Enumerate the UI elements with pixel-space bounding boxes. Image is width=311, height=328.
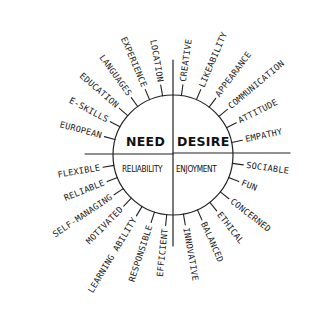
spoke-label: EUROPEAN xyxy=(59,119,103,140)
spoke-tick xyxy=(232,163,243,165)
spoke-tick xyxy=(232,140,243,142)
spoke-tick xyxy=(114,189,123,195)
spoke-label: CREATIVE xyxy=(178,38,194,82)
spoke-tick xyxy=(131,98,137,107)
spoke-label: EMPATHY xyxy=(244,126,283,144)
spoke-tick xyxy=(161,85,163,96)
spoke-tick xyxy=(166,215,167,226)
spoke-tick xyxy=(209,98,216,107)
reliability-subtitle: RELIABILITY xyxy=(122,164,163,174)
spoke-tick xyxy=(196,90,200,100)
need-title: NEED xyxy=(126,134,165,149)
spoke-tick xyxy=(107,178,117,182)
spoke-tick xyxy=(119,108,127,115)
spoke-label: FLEXIBLE xyxy=(57,162,101,179)
need-desire-diagram: NEED DESIRE RELIABILITY ENJOYMENT EUROPE… xyxy=(0,0,311,328)
spoke-label: ETHICAL xyxy=(215,210,246,246)
spoke-label: BALANCED xyxy=(199,220,226,263)
spoke-tick xyxy=(219,109,227,116)
spoke-tick xyxy=(220,192,229,199)
spoke-label: LOCATION xyxy=(148,39,165,83)
spoke-tick xyxy=(197,210,202,220)
spoke-tick xyxy=(145,90,149,100)
spoke-tick xyxy=(151,212,154,222)
spoke-tick xyxy=(103,165,114,167)
spoke-label: EFFICIENT xyxy=(155,228,170,277)
spoke-label: SOCIABLE xyxy=(246,160,290,176)
spoke-tick xyxy=(183,214,185,225)
spokes-group: EUROPEANE-SKILLSEDUCATIONLANGUAGESEXPERI… xyxy=(51,30,290,295)
spoke-label: FUN xyxy=(240,178,259,193)
spoke-tick xyxy=(227,123,237,128)
spoke-label: INNOVATIVE xyxy=(181,227,200,282)
desire-title: DESIRE xyxy=(177,134,230,149)
spoke-tick xyxy=(124,198,132,206)
enjoyment-subtitle: ENJOYMENT xyxy=(176,164,217,174)
spoke-tick xyxy=(110,122,120,127)
spoke-tick xyxy=(210,202,217,211)
spoke-label: LEARNING ABILITY xyxy=(86,215,139,294)
spoke-tick xyxy=(181,85,183,96)
spoke-tick xyxy=(229,178,239,182)
spoke-tick xyxy=(136,206,142,216)
spoke-tick xyxy=(104,137,115,140)
